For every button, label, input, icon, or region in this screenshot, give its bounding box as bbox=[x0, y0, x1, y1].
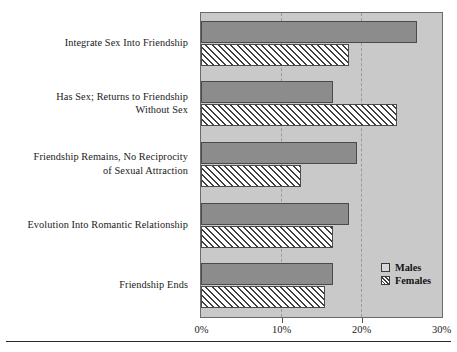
legend-label-females: Females bbox=[395, 275, 431, 286]
x-tick-label-20: 20% bbox=[352, 324, 371, 335]
category-label-2-line-0: Friendship Remains, No Reciprocity bbox=[0, 150, 188, 163]
category-label-1: Has Sex; Returns to FriendshipWithout Se… bbox=[0, 90, 188, 116]
bar-females-0 bbox=[201, 44, 349, 66]
x-tick-label-10: 10% bbox=[272, 324, 291, 335]
diagonal-hatch-square-icon bbox=[381, 276, 390, 285]
legend-item-females: Females bbox=[381, 275, 431, 286]
category-axis-labels: Integrate Sex Into FriendshipHas Sex; Re… bbox=[0, 12, 194, 318]
bar-males-1 bbox=[201, 81, 333, 103]
bar-chart-figure: Integrate Sex Into FriendshipHas Sex; Re… bbox=[0, 0, 457, 352]
x-tick-label-30: 30% bbox=[432, 324, 451, 335]
category-label-3: Evolution Into Romantic Relationship bbox=[0, 218, 188, 231]
bar-males-0 bbox=[201, 21, 417, 43]
category-label-2-line-1: of Sexual Attraction bbox=[0, 164, 188, 177]
bottom-divider-rule bbox=[6, 341, 451, 342]
gridline-20 bbox=[361, 13, 363, 317]
bar-males-3 bbox=[201, 203, 349, 225]
legend-label-males: Males bbox=[395, 262, 421, 273]
category-label-4: Friendship Ends bbox=[0, 278, 188, 291]
bar-females-2 bbox=[201, 165, 301, 187]
chart-legend: MalesFemales bbox=[378, 261, 434, 287]
category-label-0: Integrate Sex Into Friendship bbox=[0, 36, 188, 49]
bar-males-2 bbox=[201, 142, 357, 164]
bar-males-4 bbox=[201, 263, 333, 285]
legend-item-males: Males bbox=[381, 262, 431, 273]
category-label-0-line-0: Integrate Sex Into Friendship bbox=[0, 36, 188, 49]
category-label-3-line-0: Evolution Into Romantic Relationship bbox=[0, 218, 188, 231]
category-label-1-line-0: Has Sex; Returns to Friendship bbox=[0, 90, 188, 103]
x-tick-mark-20 bbox=[362, 318, 363, 323]
solid-gray-square-icon bbox=[381, 263, 390, 272]
x-tick-mark-10 bbox=[282, 318, 283, 323]
x-tick-label-0: 0% bbox=[195, 324, 209, 335]
bar-females-1 bbox=[201, 104, 397, 126]
bar-females-3 bbox=[201, 226, 333, 248]
bar-females-4 bbox=[201, 286, 325, 308]
category-label-4-line-0: Friendship Ends bbox=[0, 278, 188, 291]
plot-area: MalesFemales bbox=[200, 12, 443, 318]
category-label-2: Friendship Remains, No Reciprocityof Sex… bbox=[0, 150, 188, 176]
category-label-1-line-1: Without Sex bbox=[0, 103, 188, 116]
